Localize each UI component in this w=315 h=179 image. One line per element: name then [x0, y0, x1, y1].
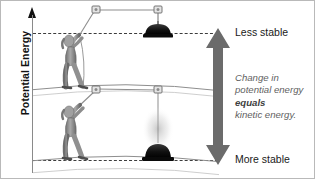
person-lower-figure: [62, 105, 87, 159]
double-headed-vertical-arrow-icon: [204, 28, 232, 165]
caption-emphasis: equals: [235, 97, 265, 108]
caption-line-1: Change in: [235, 72, 315, 84]
y-axis-label: Potential Energy: [19, 13, 31, 133]
raised-weight-icon: [143, 21, 173, 38]
less-stable-label: Less stable: [235, 26, 288, 38]
upper-scene-group: [33, 6, 219, 97]
pulley-illustration: [33, 1, 219, 179]
energy-caption: Change in potential energy equals kineti…: [235, 72, 315, 122]
caption-line-2: potential energy: [235, 84, 315, 96]
caption-line-4: kinetic energy.: [235, 109, 315, 121]
fallen-weight-icon: [142, 144, 174, 161]
lower-scene-group: [33, 86, 219, 175]
potential-energy-diagram: Potential Energy: [0, 0, 315, 179]
more-stable-label: More stable: [235, 153, 290, 165]
